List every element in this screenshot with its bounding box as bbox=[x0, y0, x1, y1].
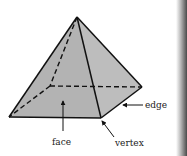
pyramid-figure: edge face vertex bbox=[0, 0, 187, 156]
edge-label: edge bbox=[145, 100, 167, 110]
vertex-label: vertex bbox=[114, 138, 144, 148]
face-label: face bbox=[52, 137, 71, 147]
vertex-arrow bbox=[102, 121, 114, 137]
pyramid-diagram: edge face vertex bbox=[0, 0, 187, 156]
page-edge-shadow bbox=[176, 0, 187, 156]
